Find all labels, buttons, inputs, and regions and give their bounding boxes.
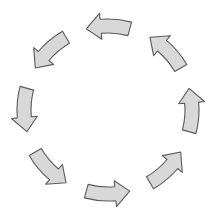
- arrow-upper-left-icon: [34, 31, 70, 68]
- arrow-right-icon: [179, 88, 205, 133]
- arrow-left-icon: [11, 86, 37, 131]
- arrow-bottom-icon: [84, 181, 129, 207]
- arrow-upper-right-icon: [150, 36, 187, 72]
- cycle-diagram: [0, 0, 216, 220]
- arrow-lower-left-icon: [29, 149, 66, 185]
- arrow-top-icon: [86, 13, 131, 39]
- arrow-lower-right-icon: [147, 152, 183, 189]
